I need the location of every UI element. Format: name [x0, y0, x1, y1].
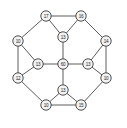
graph-node[interactable]: 13 [83, 59, 93, 69]
graph-edge [49, 93, 59, 102]
graph-edge [49, 20, 60, 34]
graph-edge [21, 81, 42, 102]
graph-node-label: 13 [86, 62, 91, 67]
graph-node-label: 16 [79, 14, 84, 19]
graph-node[interactable]: 10 [41, 100, 51, 110]
graph-node-label: 17 [44, 14, 49, 19]
graph-node-label: 60 [61, 62, 66, 67]
graph-node[interactable]: 13 [58, 32, 68, 42]
graph-edge [92, 67, 103, 75]
graph-node-label: 10 [44, 103, 49, 108]
graph-node-label: 14 [104, 39, 109, 44]
graph-node-label: 13 [61, 88, 66, 93]
graph-node[interactable]: 15 [76, 100, 86, 110]
graph-node[interactable]: 14 [101, 36, 111, 46]
graph-edge [21, 44, 35, 60]
graph-node[interactable]: 60 [58, 59, 68, 69]
graph-node[interactable]: 10 [13, 36, 23, 46]
graph-edge [84, 19, 103, 38]
node-layer: 17161410151012101313131360 [13, 11, 111, 110]
graph-node-label: 15 [79, 103, 84, 108]
graph-edge [67, 93, 78, 102]
graph-edge [66, 19, 78, 33]
graph-node[interactable]: 13 [58, 85, 68, 95]
graph-node-label: 13 [61, 35, 66, 40]
graph-node-label: 13 [36, 62, 41, 67]
graph-node[interactable]: 17 [41, 11, 51, 21]
graph-edge [22, 67, 34, 76]
graph-edge [91, 45, 103, 61]
graph-node[interactable]: 13 [33, 59, 43, 69]
graph-node-label: 12 [16, 76, 21, 81]
graph-node-label: 10 [16, 39, 21, 44]
graph-node[interactable]: 10 [101, 73, 111, 83]
graph-edge [21, 19, 42, 38]
graph-node[interactable]: 12 [13, 73, 23, 83]
graph-edge [84, 81, 103, 101]
graph-node-label: 10 [104, 76, 109, 81]
graph-figure: 17161410151012101313131360 [0, 0, 127, 128]
graph-canvas: 17161410151012101313131360 [0, 0, 127, 128]
graph-node[interactable]: 16 [76, 11, 86, 21]
